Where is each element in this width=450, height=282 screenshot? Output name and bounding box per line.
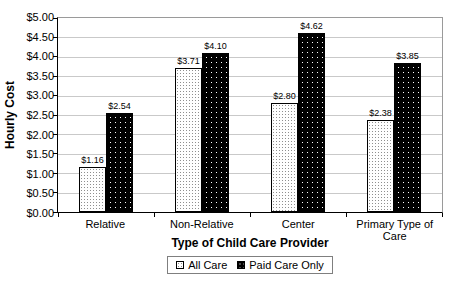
- paid-care-bar: [298, 33, 325, 212]
- bar-value-label: $3.71: [177, 57, 200, 66]
- bar-value-label: $2.54: [108, 102, 131, 111]
- legend: All Care Paid Care Only: [167, 256, 333, 274]
- x-axis-tickmark: [154, 213, 155, 217]
- y-axis-tickmark: [53, 212, 57, 213]
- x-axis-tickmark: [442, 213, 443, 217]
- y-tick-label: $2.50: [26, 109, 54, 121]
- y-tick-label: $1.00: [26, 168, 54, 180]
- y-axis-tick-labels: $5.00 $4.50 $4.00 $3.50 $3.00 $2.50 $2.0…: [18, 17, 54, 213]
- y-axis-tickmark: [53, 153, 57, 154]
- bar-wrap: $1.16: [79, 18, 106, 212]
- bar-value-label: $4.10: [204, 42, 227, 51]
- bar-wrap: $4.10: [202, 18, 229, 212]
- child-care-cost-bar-chart: Hourly Cost $5.00 $4.50 $4.00 $3.50 $3.0…: [0, 0, 450, 282]
- bar-groups: $1.16 $2.54 $3.71 $4.10: [58, 18, 442, 212]
- all-care-bar: [79, 167, 106, 212]
- paid-care-only-swatch-icon: [237, 261, 245, 269]
- bar-value-label: $1.16: [81, 156, 104, 165]
- y-axis-tickmark: [53, 56, 57, 57]
- x-axis-tickmark: [58, 213, 59, 217]
- y-tick-label: $4.50: [26, 31, 54, 43]
- y-axis-tickmark: [53, 115, 57, 116]
- legend-item-paid-care-only: Paid Care Only: [237, 259, 324, 271]
- y-axis-tickmark: [53, 134, 57, 135]
- bar-group-relative: $1.16 $2.54: [58, 18, 154, 212]
- paid-care-bar: [106, 113, 133, 212]
- legend-label: Paid Care Only: [249, 259, 324, 271]
- bar-group-non-relative: $3.71 $4.10: [154, 18, 250, 212]
- bar-value-label: $2.38: [369, 109, 392, 118]
- bar-value-label: $2.80: [273, 92, 296, 101]
- paid-care-bar: [394, 63, 421, 212]
- bar-wrap: $2.80: [271, 18, 298, 212]
- plot-area: $1.16 $2.54 $3.71 $4.10: [57, 17, 443, 213]
- legend-label: All Care: [188, 259, 227, 271]
- y-tick-label: $2.00: [26, 129, 54, 141]
- y-axis-tickmark: [53, 173, 57, 174]
- paid-care-bar: [202, 53, 229, 212]
- y-axis-tickmark: [53, 95, 57, 96]
- bar-wrap: $3.71: [175, 18, 202, 212]
- legend-row: All Care Paid Care Only: [57, 256, 443, 274]
- all-care-bar: [367, 120, 394, 212]
- bar-wrap: $2.38: [367, 18, 394, 212]
- bar-wrap: $4.62: [298, 18, 325, 212]
- all-care-swatch-icon: [176, 261, 184, 269]
- x-axis-tickmark: [250, 213, 251, 217]
- bar-group-primary-type-of-care: $2.38 $3.85: [346, 18, 442, 212]
- y-tick-label: $0.50: [26, 187, 54, 199]
- x-axis-tickmark: [346, 213, 347, 217]
- y-tick-label: $3.00: [26, 89, 54, 101]
- y-axis-tickmark: [53, 192, 57, 193]
- bar-value-label: $4.62: [300, 22, 323, 31]
- bar-wrap: $3.85: [394, 18, 421, 212]
- y-tick-label: $1.50: [26, 148, 54, 160]
- all-care-bar: [175, 68, 202, 212]
- y-axis-title: Hourly Cost: [3, 81, 17, 149]
- all-care-bar: [271, 103, 298, 212]
- x-axis-title: Type of Child Care Provider: [57, 236, 443, 250]
- bar-group-center: $2.80 $4.62: [250, 18, 346, 212]
- y-axis-tickmark: [53, 37, 57, 38]
- y-tick-label: $5.00: [26, 11, 54, 23]
- y-axis-tickmark: [53, 18, 57, 19]
- y-tick-label: $4.00: [26, 50, 54, 62]
- legend-item-all-care: All Care: [176, 259, 227, 271]
- y-tick-label: $0.00: [26, 207, 54, 219]
- y-axis-tickmark: [53, 76, 57, 77]
- bar-value-label: $3.85: [396, 52, 419, 61]
- bar-wrap: $2.54: [106, 18, 133, 212]
- y-tick-label: $3.50: [26, 70, 54, 82]
